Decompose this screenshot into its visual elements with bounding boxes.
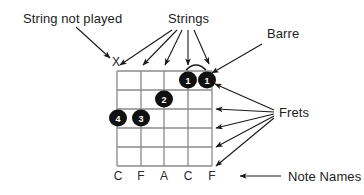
finger-dot-3: 3 — [132, 110, 150, 127]
label-string-not-played: String not played — [23, 11, 122, 26]
callout-arrow-string-not-played — [76, 27, 110, 58]
callout-arrows-strings — [120, 30, 209, 65]
callout-arrows-frets — [215, 84, 274, 166]
finger-dot-1a: 1 — [179, 72, 197, 89]
note-letter-2: F — [134, 169, 148, 183]
strings-arrow-5 — [194, 30, 209, 64]
strings-arrow-3 — [165, 30, 182, 65]
strings-arrow-1 — [120, 30, 172, 65]
note-letter-5: F — [205, 169, 219, 183]
note-letter-3: A — [157, 169, 171, 183]
svg-text:2: 2 — [161, 95, 166, 105]
finger-dots: 1 1 2 3 4 — [109, 72, 216, 127]
label-barre: Barre — [267, 26, 299, 41]
diagram-canvas: 1 1 2 3 4 — [0, 0, 364, 195]
finger-dot-1b: 1 — [198, 72, 216, 89]
note-letter-4: C — [181, 169, 195, 183]
finger-dot-2: 2 — [155, 91, 173, 108]
svg-text:1: 1 — [204, 76, 209, 86]
barre-arc — [186, 65, 206, 70]
fretboard-grid — [117, 71, 212, 166]
frets-arrow-1 — [215, 84, 274, 110]
label-note-names: Note Names — [288, 169, 361, 184]
label-frets: Frets — [279, 105, 309, 120]
note-letter-1: C — [111, 169, 125, 183]
label-strings: Strings — [168, 11, 209, 26]
svg-text:1: 1 — [185, 76, 190, 86]
muted-string-x-marker: X — [112, 55, 120, 69]
callout-arrow-barre — [212, 44, 262, 73]
finger-dot-4: 4 — [109, 110, 127, 127]
frets-arrow-2 — [216, 109, 274, 112]
svg-text:4: 4 — [115, 114, 120, 124]
svg-text:3: 3 — [138, 114, 143, 124]
strings-arrow-2 — [143, 30, 177, 65]
chord-diagram-figure: 1 1 2 3 4 — [0, 0, 364, 195]
